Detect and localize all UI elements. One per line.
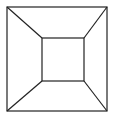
frame-diagram [0, 0, 116, 121]
outer-square [7, 7, 107, 111]
inner-square [42, 38, 84, 81]
corner-line-bottom-left [7, 81, 42, 111]
corner-line-top-left [7, 7, 42, 38]
corner-line-top-right [84, 7, 107, 38]
corner-line-bottom-right [84, 81, 107, 111]
